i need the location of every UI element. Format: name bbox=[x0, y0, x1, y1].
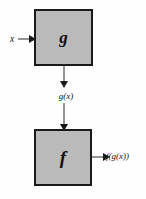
function-box-g-label: g bbox=[59, 29, 68, 46]
arrow-intermediate-to-f-icon bbox=[56, 103, 72, 131]
output-expression-label: f(g(x)) bbox=[106, 152, 129, 161]
function-box-f[interactable]: f bbox=[34, 129, 92, 186]
intermediate-value-label: g(x) bbox=[52, 92, 80, 101]
function-box-f-label: f bbox=[60, 148, 66, 167]
diagram-canvas: x g g(x) f f(g(x)) bbox=[0, 0, 146, 199]
arrow-g-to-intermediate-icon bbox=[56, 64, 72, 88]
input-variable-label: x bbox=[10, 35, 14, 45]
function-box-g[interactable]: g bbox=[34, 9, 93, 66]
